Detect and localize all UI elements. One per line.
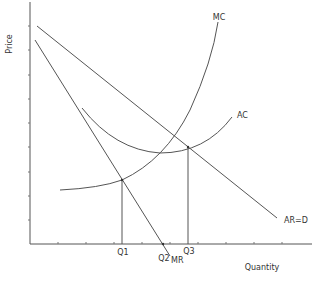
q1-intersection-point <box>121 179 123 181</box>
y-axis-label: Price <box>5 34 14 54</box>
q2-label: Q2 <box>158 254 169 263</box>
q1-label: Q1 <box>117 248 128 257</box>
ac-curve <box>82 108 232 153</box>
mr-label: MR <box>171 256 184 265</box>
ar-d-label: AR=D <box>284 216 308 225</box>
x-axis-label: Quantity <box>245 263 280 272</box>
mr-curve <box>35 40 170 256</box>
q3-intersection-point <box>187 146 189 148</box>
q2-intersection-point <box>162 243 164 245</box>
ac-label: AC <box>237 111 248 120</box>
monopoly-diagram: Price Quantity MC AC AR=D MR Q1 Q2 Q3 <box>0 0 312 282</box>
q3-label: Q3 <box>183 247 194 256</box>
mc-label: MC <box>213 13 226 22</box>
mc-curve <box>60 22 218 190</box>
